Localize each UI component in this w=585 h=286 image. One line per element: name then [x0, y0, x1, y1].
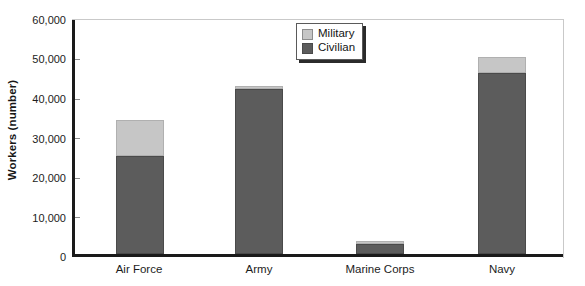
legend-swatch-military-icon [302, 29, 313, 40]
y-tick-label-10000: 10,000 [10, 213, 66, 224]
legend-item-civilian: Civilian [302, 41, 355, 55]
bar-segment-navy-civilian [478, 73, 526, 254]
y-axis-tick-labels: 60,000 50,000 40,000 30,000 20,000 10,00… [8, 0, 66, 286]
x-tick-label-navy: Navy [489, 263, 515, 275]
chart-figure: Workers (number) 60,000 50,000 40,000 30… [0, 0, 585, 286]
bar-segment-navy-military [478, 57, 526, 73]
y-tick-label-50000: 50,000 [10, 54, 66, 65]
legend-swatch-civilian-icon [302, 43, 313, 54]
x-tick-label-marine-corps: Marine Corps [345, 263, 414, 275]
chart-legend: Military Civilian [296, 23, 363, 60]
bar-segment-marine-corps-civilian [356, 244, 404, 254]
y-tick-label-0: 0 [10, 252, 66, 263]
y-tick-label-40000: 40,000 [10, 94, 66, 105]
x-tick-label-air-force: Air Force [116, 263, 163, 275]
bar-segment-army-civilian [235, 89, 283, 254]
figure-right-rule [563, 19, 564, 258]
bar-segment-air-force-military [116, 120, 164, 155]
x-tick-label-army: Army [246, 263, 273, 275]
bar-segment-air-force-civilian [116, 156, 164, 254]
legend-label-civilian: Civilian [318, 42, 355, 54]
bar-segment-marine-corps-military [356, 241, 404, 244]
y-tick-label-30000: 30,000 [10, 134, 66, 145]
bar-segment-army-military [235, 86, 283, 89]
y-tick-label-60000: 60,000 [10, 15, 66, 26]
legend-item-military: Military [302, 27, 355, 41]
legend-label-military: Military [318, 28, 354, 40]
y-tick-label-20000: 20,000 [10, 173, 66, 184]
